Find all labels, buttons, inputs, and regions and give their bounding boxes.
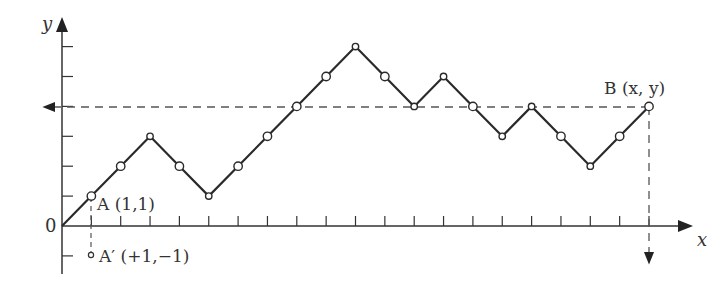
path-node [322, 72, 330, 80]
path-node [587, 163, 593, 169]
path-node [381, 72, 389, 80]
path-node [147, 133, 153, 139]
path-node [557, 132, 565, 140]
path-node [469, 102, 477, 110]
path-node [206, 193, 212, 199]
path-node [293, 102, 301, 110]
y-axis-label: y [41, 13, 53, 34]
path-nodes [87, 43, 653, 200]
origin-label: 0 [45, 215, 56, 236]
point-a-prime-label: A′ (+1,−1) [98, 246, 189, 266]
path-node [175, 162, 183, 170]
path-node [528, 103, 534, 109]
path-node [263, 132, 271, 140]
path-node [440, 73, 446, 79]
a-prime-point [88, 252, 93, 257]
path-node [411, 103, 417, 109]
path-node [117, 162, 125, 170]
path-node [352, 43, 358, 49]
path-node [234, 162, 242, 170]
point-a-label: A (1,1) [96, 194, 155, 214]
axis-ticks [62, 47, 649, 256]
path-node [645, 102, 653, 110]
lattice-path-diagram: y x 0 A (1,1) A′ (+1,−1) B (x, y) [0, 0, 714, 294]
path-node [87, 192, 95, 200]
path-node [499, 133, 505, 139]
x-axis-label: x [697, 229, 707, 250]
point-b-label: B (x, y) [604, 78, 665, 98]
path-node [615, 132, 623, 140]
